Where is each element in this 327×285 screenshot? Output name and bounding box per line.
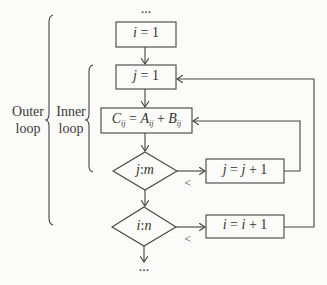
test-j-label: j:m bbox=[125, 162, 165, 178]
start-ellipsis: ... bbox=[136, 1, 156, 17]
outer-loop-label: Outer loop bbox=[6, 103, 50, 137]
inc-j-label: j = j + 1 bbox=[206, 162, 284, 178]
inner-loop-label: Inner loop bbox=[52, 103, 90, 137]
flowchart-canvas bbox=[0, 0, 327, 285]
test-i-less-label: < bbox=[183, 232, 193, 247]
test-j-less-label: < bbox=[183, 176, 193, 191]
compute-label: Cij = Aij + Bij bbox=[101, 111, 192, 128]
end-ellipsis: ... bbox=[134, 259, 154, 275]
init-j-label: j = 1 bbox=[116, 68, 176, 84]
arrow-inc-i-to-init-j bbox=[177, 79, 314, 227]
test-i-label: i:n bbox=[124, 218, 164, 234]
init-i-label: i = 1 bbox=[116, 25, 176, 41]
inc-i-label: i = i + 1 bbox=[206, 217, 284, 233]
